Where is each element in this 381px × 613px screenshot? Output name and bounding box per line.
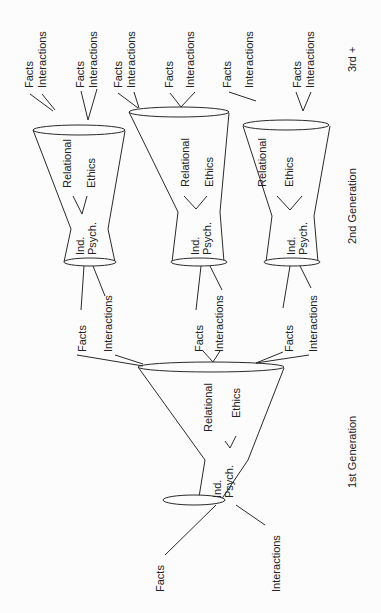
gen1-facts-label: Facts — [154, 565, 166, 592]
gen2-right-psych: Psych. — [297, 222, 309, 255]
gen3-facts-1: Facts — [23, 61, 35, 88]
gen2-mid-funnel: Relational Ethics Ind. Psych. Facts Inte… — [129, 107, 229, 352]
gen2-mid-relational: Relational — [179, 138, 191, 187]
gen2-left-ind: Ind. — [74, 237, 86, 255]
gen3-interactions-3: Interactions — [125, 31, 137, 88]
gen2-left-relational: Relational — [61, 139, 73, 188]
gen2-right-top-ellipse — [243, 120, 329, 130]
gen2-left-funnel: Relational Ethics Ind. Psych. Facts Inte… — [33, 125, 125, 352]
gen1-label: 1st Generation — [346, 416, 358, 488]
gen3-facts-4: Facts — [163, 61, 175, 88]
gen1-vee-icon — [225, 436, 236, 448]
gen1-psych: Psych. — [223, 465, 235, 498]
gen3-interactions-1: Interactions — [36, 31, 48, 88]
gen2-mid-facts: Facts — [193, 325, 205, 352]
gen2-mid-vee-icon — [184, 196, 207, 209]
gen1-ind: Ind. — [211, 480, 223, 498]
gen2-mid-bottom-ellipse — [171, 258, 227, 266]
gen2-mid-psych: Psych. — [201, 222, 213, 255]
gen2-right-facts: Facts — [283, 325, 295, 352]
gen2-right-bottom-ellipse — [264, 258, 320, 266]
gen2-right-ethics: Ethics — [283, 157, 295, 187]
gen2-left-top-ellipse — [33, 125, 125, 135]
gen3-facts-2: Facts — [74, 61, 86, 88]
gen2-right-funnel: Relational Ethics Ind. Psych. Facts Inte… — [243, 120, 330, 352]
gen3-facts-6: Facts — [291, 61, 303, 88]
funnel-diagram: Relational Ethics Ind. Psych. Facts Inte… — [0, 0, 381, 613]
gen3-interactions-2: Interactions — [87, 31, 99, 88]
gen3-interactions-4: Interactions — [184, 31, 196, 88]
gen2-mid-ethics: Ethics — [203, 157, 215, 187]
gen2-left-vee-icon — [73, 196, 87, 214]
gen3-interactions-5: Interactions — [243, 31, 255, 88]
gen3-label: 3rd + — [346, 47, 358, 72]
gen2-label: 2nd Generation — [346, 168, 358, 244]
gen2-mid-top-ellipse — [129, 107, 229, 117]
gen1-relational: Relational — [202, 383, 214, 432]
gen2-left-facts: Facts — [76, 325, 88, 352]
gen2-mid-ind: Ind. — [189, 237, 201, 255]
gen3-facts-3: Facts — [112, 61, 124, 88]
gen1-top-ellipse — [138, 362, 284, 372]
gen2-mid-interactions: Interactions — [213, 295, 225, 352]
gen1-inputs: Facts Interactions — [154, 505, 282, 592]
gen1-ethics: Ethics — [230, 388, 242, 418]
diagram-svg: Relational Ethics Ind. Psych. Facts Inte… — [0, 0, 381, 613]
gen1-funnel: Relational Ethics Ind. Psych. — [138, 362, 284, 505]
gen2-right-ind: Ind. — [285, 237, 297, 255]
gen2-left-interactions: Interactions — [102, 295, 114, 352]
gen2-left-bottom-ellipse — [64, 258, 116, 266]
gen2-left-psych: Psych. — [86, 222, 98, 255]
gen2-right-interactions: Interactions — [307, 295, 319, 352]
gen3-facts-5: Facts — [221, 61, 233, 88]
gen1-interactions-label: Interactions — [270, 535, 282, 592]
gen3-interactions-6: Interactions — [304, 31, 316, 88]
gen2-right-vee-icon — [277, 196, 302, 210]
gen2-left-ethics: Ethics — [85, 158, 97, 188]
gen2-right-relational: Relational — [256, 138, 268, 187]
